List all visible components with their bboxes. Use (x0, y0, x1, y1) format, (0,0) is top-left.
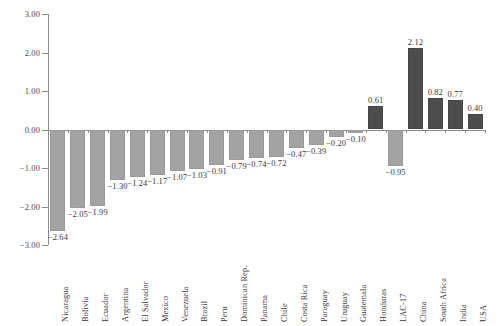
x-axis-tick (346, 130, 347, 133)
x-axis-tick (425, 130, 426, 133)
x-axis-category-label: Uruguay (340, 292, 349, 322)
bar-value-label: 0.77 (435, 89, 475, 99)
bar-chart: 3.002.001.000.00−1.00−2.00−3.00 −2.64−2.… (0, 0, 504, 326)
bar-value-label: 2.12 (395, 37, 435, 47)
y-axis-tick-label: −3.00 (0, 240, 40, 250)
x-axis-tick (485, 130, 486, 133)
x-axis-tick (127, 130, 128, 133)
x-axis-category-label: Venezuela (181, 287, 190, 322)
bar[interactable] (249, 130, 264, 158)
bar-value-label: −0.95 (376, 167, 416, 177)
bar[interactable] (110, 130, 125, 180)
y-axis-tick (42, 91, 48, 92)
x-axis-category-label: Guatemala (359, 285, 368, 322)
x-axis-category-label: El Salvador (141, 281, 150, 322)
x-axis-category-label: Panama (260, 295, 269, 322)
bar-value-label: −0.72 (256, 158, 296, 168)
x-axis-category-label: China (419, 301, 428, 322)
x-axis-tick (227, 130, 228, 133)
bar-value-label: −0.10 (336, 134, 376, 144)
x-axis-tick (267, 130, 268, 133)
x-axis-category-label: Dominican Rep. (240, 266, 249, 322)
y-axis-tick-label: 2.00 (0, 48, 40, 58)
x-axis-tick (108, 130, 109, 133)
bar[interactable] (130, 130, 145, 178)
y-axis-tick (42, 53, 48, 54)
x-axis-category-label: Mexico (161, 296, 170, 322)
x-axis-tick (48, 130, 49, 133)
x-axis-tick (306, 130, 307, 133)
x-axis-category-label: India (459, 304, 468, 322)
bar[interactable] (170, 130, 185, 171)
y-axis-tick-label: 0.00 (0, 125, 40, 135)
y-axis-tick-label: 3.00 (0, 9, 40, 19)
x-axis-category-label: Paraguay (320, 290, 329, 322)
y-axis-tick (42, 207, 48, 208)
bar[interactable] (209, 130, 224, 165)
x-axis-category-label: LAC-17 (399, 293, 408, 322)
x-axis-category-label: Brazil (200, 301, 209, 322)
x-axis-category-label: Honduras (379, 289, 388, 322)
x-axis-category-label: USA (479, 305, 488, 322)
y-axis-tick-label: −1.00 (0, 163, 40, 173)
bar-value-label: 0.61 (356, 95, 396, 105)
y-axis-tick (42, 168, 48, 169)
bar-value-label: −1.99 (78, 207, 118, 217)
bar[interactable] (229, 130, 244, 160)
x-axis-tick (465, 130, 466, 133)
x-axis-category-label: Nicaragua (61, 287, 70, 322)
bar[interactable] (90, 130, 105, 207)
bar-value-label: 0.40 (455, 103, 495, 113)
y-axis-tick-label: −2.00 (0, 202, 40, 212)
bar[interactable] (468, 114, 483, 129)
x-axis-category-label: Bolivia (81, 297, 90, 322)
x-axis-tick (406, 130, 407, 133)
x-axis-tick (286, 130, 287, 133)
y-axis-tick-label: 1.00 (0, 86, 40, 96)
bar[interactable] (348, 130, 363, 134)
y-axis-tick (42, 14, 48, 15)
x-axis-category-label: Argentina (121, 288, 130, 322)
x-axis-category-label: Ecuador (101, 293, 110, 322)
x-axis-tick (68, 130, 69, 133)
bar[interactable] (189, 130, 204, 170)
bar[interactable] (70, 130, 85, 209)
x-axis-tick (147, 130, 148, 133)
x-axis-tick (88, 130, 89, 133)
x-axis-tick (207, 130, 208, 133)
x-axis-category-label: Costa Rica (300, 284, 309, 322)
bar-value-label: −2.64 (38, 232, 78, 242)
bar[interactable] (368, 106, 383, 129)
x-axis-tick (386, 130, 387, 133)
x-axis-tick (326, 130, 327, 133)
x-axis-category-label: South Africa (439, 278, 448, 322)
bar[interactable] (428, 98, 443, 130)
x-axis-category-label: Chile (280, 303, 289, 322)
x-axis-tick (445, 130, 446, 133)
x-axis-tick (247, 130, 248, 133)
y-axis-tick (42, 245, 48, 246)
x-axis-tick (187, 130, 188, 133)
bar[interactable] (388, 130, 403, 167)
x-axis-tick (366, 130, 367, 133)
bar[interactable] (150, 130, 165, 175)
x-axis-category-label: Peru (220, 306, 229, 322)
x-axis-tick (167, 130, 168, 133)
